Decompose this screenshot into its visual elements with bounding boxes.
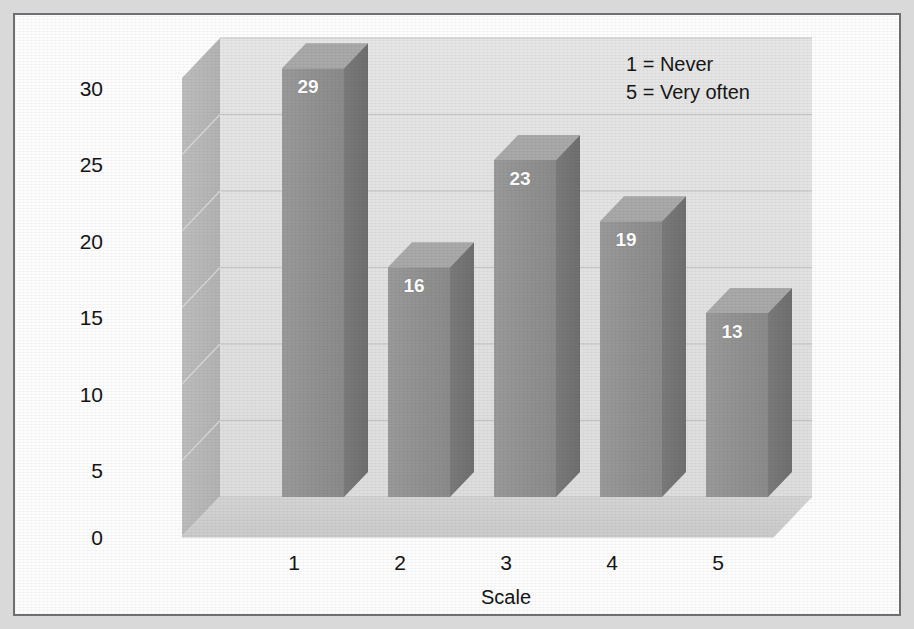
bar-column-1[interactable] bbox=[282, 43, 368, 497]
y-tick-label-5: 5 bbox=[51, 460, 103, 481]
chart-floor bbox=[182, 497, 812, 537]
x-tick-label-2: 2 bbox=[370, 552, 430, 573]
bar-value-label-5: 13 bbox=[702, 322, 762, 341]
legend-line-never: 1 = Never bbox=[626, 54, 750, 74]
y-tick-label-30: 30 bbox=[51, 78, 103, 99]
bar-value-label-3: 23 bbox=[490, 169, 550, 188]
bar-column-3[interactable] bbox=[494, 135, 580, 497]
bar-value-label-4: 19 bbox=[596, 230, 656, 249]
y-tick-label-10: 10 bbox=[51, 384, 103, 405]
scanned-page: 30 25 20 15 10 5 0 1 2 3 4 5 Scale 1 = N… bbox=[0, 0, 914, 629]
x-tick-label-1: 1 bbox=[264, 552, 324, 573]
y-tick-label-0: 0 bbox=[51, 527, 103, 548]
legend-line-very-often: 5 = Very often bbox=[626, 82, 750, 102]
x-axis-title: Scale bbox=[426, 587, 586, 607]
bar-column-5[interactable] bbox=[706, 288, 792, 497]
bar-chart-3d bbox=[15, 15, 903, 618]
figure-frame: 30 25 20 15 10 5 0 1 2 3 4 5 Scale 1 = N… bbox=[13, 13, 901, 616]
y-tick-label-20: 20 bbox=[51, 231, 103, 252]
y-tick-label-15: 15 bbox=[51, 307, 103, 328]
x-tick-label-3: 3 bbox=[476, 552, 536, 573]
y-tick-label-25: 25 bbox=[51, 154, 103, 175]
x-tick-label-4: 4 bbox=[582, 552, 642, 573]
legend-block: 1 = Never 5 = Very often bbox=[626, 54, 750, 102]
bar-value-label-2: 16 bbox=[384, 276, 444, 295]
x-tick-label-5: 5 bbox=[688, 552, 748, 573]
bar-value-label-1: 29 bbox=[278, 77, 338, 96]
